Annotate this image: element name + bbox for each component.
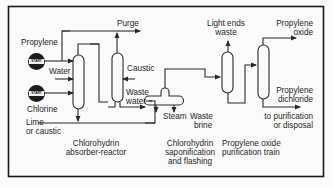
chlorine-pump-icon: START (28, 85, 45, 102)
light-ends-column (222, 52, 233, 93)
purge-label: Purge (117, 19, 139, 29)
steam-label: Steam (163, 112, 187, 122)
propylene-pump-icon: START (28, 53, 45, 70)
light-ends-label-2: waste (203, 28, 249, 38)
purification-caption-2: purification train (222, 148, 280, 158)
chlorine-label: Chlorine (27, 105, 58, 115)
propylene-label: Propylene (21, 38, 58, 48)
waste-water-label-2: water (126, 97, 146, 107)
disposal-label-2: or disposal (245, 121, 313, 131)
saponifier-vessel (145, 88, 184, 105)
process-flow-diagram: START START Propylene Water Chlorine Lim… (0, 0, 333, 188)
waste-brine-label-2: brine (194, 121, 212, 131)
propylene-oxide-label-2: oxide (265, 28, 313, 38)
caustic-label: Caustic (127, 64, 154, 74)
absorber-caption-2: absorber-reactor (56, 148, 136, 158)
propylene-dichloride-label-2: dichloride (265, 95, 313, 105)
caustic-label-2: or caustic (26, 127, 61, 137)
scrubber-column (112, 53, 123, 102)
absorber-column (73, 55, 84, 109)
water-label: Water (49, 67, 71, 77)
saponification-caption-3: and flashing (158, 157, 222, 167)
